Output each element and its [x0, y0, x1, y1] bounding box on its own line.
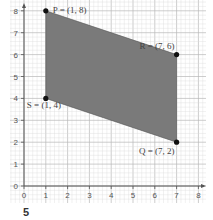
x-tick-label: 6: [153, 191, 158, 200]
y-tick-label: 5: [14, 73, 19, 82]
x-tick-label: 8: [196, 191, 201, 200]
point-q: [174, 140, 179, 145]
y-tick-label: 7: [14, 29, 19, 38]
x-tick-label: 0: [22, 191, 27, 200]
x-tick-label: 7: [174, 191, 179, 200]
point-label-s: S = (1, 4): [27, 100, 61, 110]
x-tick-label: 3: [87, 191, 92, 200]
y-tick-label: 2: [14, 138, 19, 147]
x-tick-label: 1: [44, 191, 49, 200]
y-tick-label: 1: [14, 160, 19, 169]
x-tick-label: 4: [109, 191, 114, 200]
point-p: [43, 8, 48, 13]
y-tick-label: 8: [14, 7, 19, 16]
y-tick-label: 3: [14, 116, 19, 125]
x-tick-label: 5: [131, 191, 136, 200]
x-tick-label: 2: [65, 191, 70, 200]
coordinate-graph: 012345678012345678 P = (1, 8)R = (7, 6)Q…: [0, 0, 213, 220]
question-number: 5: [23, 206, 29, 218]
point-label-p: P = (1, 8): [53, 5, 87, 15]
point-r: [174, 52, 179, 57]
point-label-q: Q = (7, 2): [139, 146, 175, 156]
y-tick-label: 0: [14, 182, 19, 191]
y-tick-label: 4: [14, 94, 19, 103]
point-label-r: R = (7, 6): [140, 41, 175, 51]
y-tick-label: 6: [14, 51, 19, 60]
